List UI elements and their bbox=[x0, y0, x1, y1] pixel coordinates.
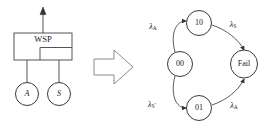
state-node-10-label: 10 bbox=[195, 18, 203, 27]
transition-label-10-to-fail: λS bbox=[229, 20, 237, 29]
transition-00-to-10-arc bbox=[173, 21, 186, 52]
rate-prime-00-01: ′ bbox=[155, 101, 157, 109]
wsp-box-label: WSP bbox=[34, 34, 52, 44]
transition-label-00-to-10: λA bbox=[148, 22, 156, 31]
transition-01-to-fail-arc bbox=[212, 79, 244, 105]
component-s-label: S bbox=[57, 89, 61, 98]
transition-label-01-to-fail: λA bbox=[229, 101, 237, 110]
state-node-00-label: 00 bbox=[176, 59, 184, 68]
state-node-01-label: 01 bbox=[195, 103, 203, 112]
rate-subscript-10-fail: S bbox=[233, 23, 236, 29]
output-up-arrow-icon bbox=[40, 7, 46, 33]
state-diagram: 00 10 Fail 01 λA λS λS′ λA bbox=[128, 0, 267, 129]
left-system-diagram: WSP A S bbox=[0, 0, 95, 129]
transition-10-to-fail-arc bbox=[212, 25, 244, 50]
transition-label-00-to-01: λS′ bbox=[147, 100, 157, 109]
rate-subscript-00-10: A bbox=[153, 25, 157, 31]
component-a-label: A bbox=[24, 89, 30, 98]
state-node-fail-label: Fail bbox=[238, 59, 251, 68]
figure-root: WSP A S 00 10 Fail bbox=[0, 0, 267, 129]
transition-00-to-01-arc bbox=[173, 76, 186, 108]
rate-subscript-01-fail: A bbox=[234, 104, 238, 110]
